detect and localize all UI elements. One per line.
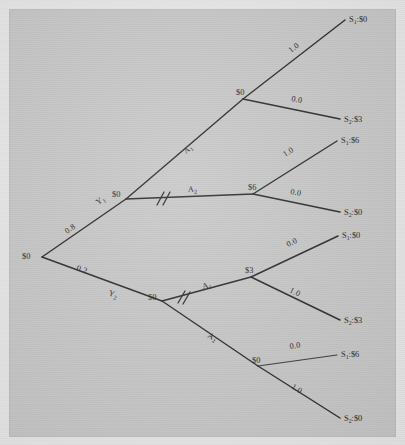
svg-text:A1: A1 — [201, 280, 213, 292]
edge-g1-top — [243, 20, 345, 99]
prob-g4-top-text: 0.0 — [289, 341, 301, 351]
outcome-value: :$3 — [352, 316, 363, 325]
prob-g4-top: 0.0 — [289, 341, 301, 351]
outcome-label: S1:$0 — [342, 231, 360, 241]
decision-tree-diagram: $0 $0 $0 $0 $6 $3 $0 Y1 0.8 Y2 0.2 A1 — [0, 0, 405, 445]
branch-a2-upper-sub: 2 — [194, 189, 197, 195]
edge-root-to-y1 — [42, 199, 126, 257]
outcome-value: :$0 — [357, 15, 368, 24]
outcome-label: S2:$3 — [344, 115, 362, 125]
outcome-value: :$0 — [352, 414, 363, 423]
node-upper-decision-label: $0 — [112, 190, 120, 199]
branch-a1-lower-sub: 1 — [208, 284, 213, 291]
node-outcome-six-label: $6 — [248, 183, 256, 192]
node-lower-decision-label: $0 — [148, 293, 156, 302]
outcome-label: S1:$6 — [341, 136, 359, 146]
outcome-value: :$6 — [349, 136, 360, 145]
outcome-label: S1:$0 — [349, 15, 367, 25]
prob-g1-top: 1.0 — [287, 41, 301, 55]
branch-label-a2-upper: A2 — [188, 185, 198, 195]
prob-g1-bottom-text: 0.0 — [291, 94, 303, 105]
branch-label-a1-lower: A1 — [201, 280, 213, 292]
prune-mark-a2-upper-1 — [157, 192, 164, 205]
outcome-label: S2:$3 — [344, 316, 362, 326]
prune-mark-a2-upper-2 — [163, 192, 170, 205]
screenshot-canvas: $0 $0 $0 $0 $6 $3 $0 Y1 0.8 Y2 0.2 A1 — [0, 0, 405, 445]
outcome-label: S2:$0 — [344, 414, 362, 424]
prob-g2-bottom: 0.0 — [290, 187, 302, 198]
outcome-label: S1:$6 — [341, 350, 359, 360]
prob-g3-top: 0.0 — [285, 236, 299, 249]
outcome-value: :$0 — [350, 231, 361, 240]
prob-g2-bottom-text: 0.0 — [290, 187, 302, 198]
svg-text:A2: A2 — [188, 185, 198, 195]
branch-y2-sub: 2 — [113, 294, 118, 301]
svg-text:Y2: Y2 — [107, 288, 119, 301]
edge-g3-bottom — [251, 277, 340, 320]
node-outcome-three-label: $3 — [245, 266, 253, 275]
edge-g4-top — [258, 355, 337, 366]
edge-a2-upper — [126, 194, 253, 199]
node-outcome-bottom-label: $0 — [252, 356, 260, 365]
outcome-label: S2:$0 — [344, 208, 362, 218]
node-root-label: $0 — [22, 252, 30, 261]
branch-label-a1-upper: A1 — [182, 143, 196, 157]
outcome-value: :$0 — [352, 208, 363, 217]
svg-text:A1: A1 — [182, 143, 196, 157]
outcome-value: :$6 — [349, 350, 360, 359]
prob-g2-top-text: 1.0 — [281, 145, 295, 158]
prob-g2-top: 1.0 — [281, 145, 295, 158]
prob-g3-top-text: 0.0 — [285, 236, 299, 249]
branch-label-y1: Y1 — [94, 194, 107, 207]
svg-text:Y1: Y1 — [94, 194, 107, 207]
branch-label-y2: Y2 — [107, 288, 119, 301]
prob-g1-bottom: 0.0 — [291, 94, 303, 105]
edge-root-to-y2 — [42, 257, 162, 301]
edge-g2-top — [253, 141, 337, 194]
outcome-value: :$3 — [352, 115, 363, 124]
node-outcome-top-label: $0 — [236, 88, 244, 97]
prob-g1-top-text: 1.0 — [287, 41, 301, 55]
